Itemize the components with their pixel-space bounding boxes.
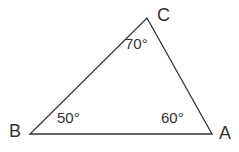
triangle-figure: C B A 70° 50° 60° (0, 0, 239, 152)
triangle-drawing-canvas (0, 0, 239, 152)
vertex-label-c: C (157, 6, 170, 24)
vertex-label-a: A (219, 124, 231, 142)
vertex-label-b: B (9, 122, 21, 140)
angle-label-b: 50° (57, 110, 80, 125)
angle-label-c: 70° (125, 36, 148, 51)
angle-label-a: 60° (161, 110, 184, 125)
